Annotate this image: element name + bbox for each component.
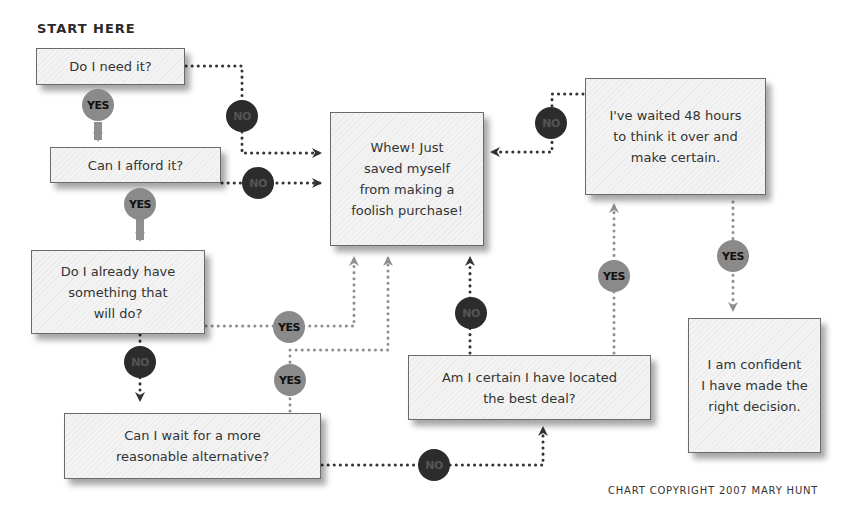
copyright-text: CHART COPYRIGHT 2007 MARY HUNT: [608, 485, 818, 496]
no-badge-wait: NO: [418, 449, 450, 481]
node-best-deal: Am I certain I have located the best dea…: [408, 355, 651, 420]
no-badge-best-deal: NO: [455, 297, 487, 329]
node-confident: I am confident I have made the right dec…: [688, 318, 821, 453]
node-afford-it-text: Can I afford it?: [88, 155, 183, 176]
node-whew-saved-text: Whew! Just saved myself from making a fo…: [351, 137, 463, 221]
node-afford-it: Can I afford it?: [50, 147, 221, 183]
node-wait-alternative-text: Can I wait for a more reasonable alterna…: [116, 425, 269, 467]
node-best-deal-text: Am I certain I have located the best dea…: [442, 367, 617, 409]
yes-badge-need: YES: [82, 89, 114, 121]
yes-badge-best-deal: YES: [598, 260, 630, 292]
no-badge-waited: NO: [535, 107, 567, 139]
yes-badge-already-have: YES: [273, 311, 305, 343]
node-waited-48-hours-text: I've waited 48 hours to think it over an…: [609, 105, 741, 168]
node-wait-alternative: Can I wait for a more reasonable alterna…: [64, 413, 321, 479]
yes-badge-wait: YES: [274, 364, 306, 396]
node-need-it-text: Do I need it?: [69, 56, 151, 77]
node-already-have: Do I already have something that will do…: [31, 250, 205, 334]
node-whew-saved: Whew! Just saved myself from making a fo…: [330, 112, 484, 246]
yes-badge-afford: YES: [124, 188, 156, 220]
node-already-have-text: Do I already have something that will do…: [61, 261, 176, 324]
no-badge-need: NO: [226, 100, 258, 132]
no-badge-already-have: NO: [124, 346, 156, 378]
node-waited-48-hours: I've waited 48 hours to think it over an…: [585, 78, 766, 195]
node-confident-text: I am confident I have made the right dec…: [701, 354, 807, 417]
no-badge-afford: NO: [242, 167, 274, 199]
node-need-it: Do I need it?: [36, 48, 185, 85]
yes-badge-waited: YES: [717, 240, 749, 272]
